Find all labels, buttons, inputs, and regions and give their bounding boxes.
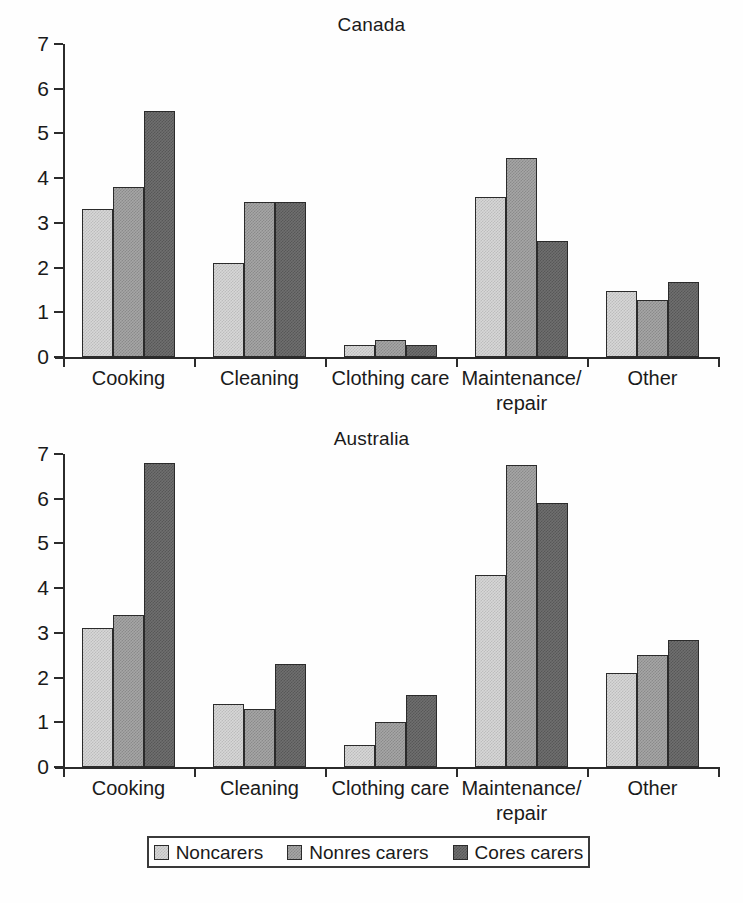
x-tick-label: Other — [587, 366, 718, 391]
bar — [213, 704, 244, 767]
y-axis-tick — [54, 356, 63, 358]
y-axis-tick — [54, 88, 63, 90]
bar — [275, 664, 306, 767]
bar — [406, 695, 437, 767]
bar — [606, 673, 637, 767]
legend-label: Nonres carers — [309, 843, 428, 862]
legend-label: Noncarers — [176, 843, 264, 862]
bar — [244, 709, 275, 767]
x-tick-label: Maintenance/ repair — [456, 366, 587, 416]
bar — [668, 640, 699, 767]
x-tick-label: Cooking — [63, 776, 194, 801]
bar — [668, 282, 699, 357]
x-tick-label: Maintenance/ repair — [456, 776, 587, 826]
chart-title-australia: Australia — [0, 428, 743, 450]
y-axis-tick-label: 6 — [37, 78, 49, 99]
chart-title-canada: Canada — [0, 14, 743, 36]
y-axis-tick-label: 3 — [37, 212, 49, 233]
plot-area-canada: 01234567 — [63, 44, 718, 357]
bar — [637, 655, 668, 767]
y-axis-tick-label: 2 — [37, 257, 49, 278]
figure-page: Canada 01234567 CookingCleaningClothing … — [0, 0, 743, 903]
legend-item: Cores carers — [453, 843, 584, 862]
legend-item: Nonres carers — [287, 843, 428, 862]
bar — [82, 628, 113, 767]
bar — [537, 503, 568, 767]
legend-label: Cores carers — [475, 843, 584, 862]
bar — [475, 575, 506, 767]
bar — [375, 340, 406, 357]
y-axis-tick-label: 0 — [37, 346, 49, 367]
y-axis-tick — [54, 766, 63, 768]
bar — [275, 202, 306, 357]
bar — [213, 263, 244, 357]
x-axis-group-tick — [718, 768, 720, 777]
y-axis-tick — [54, 222, 63, 224]
x-tick-label: Cleaning — [194, 366, 325, 391]
figure-caption — [8, 886, 743, 900]
chart-panel-australia: Australia 01234567 CookingCleaningClothi… — [0, 420, 743, 830]
x-tick-label: Cleaning — [194, 776, 325, 801]
y-axis-tick — [54, 177, 63, 179]
y-axis-tick-label: 1 — [37, 301, 49, 322]
bar — [344, 345, 375, 357]
y-axis-tick — [54, 632, 63, 634]
y-axis-tick — [54, 267, 63, 269]
bar — [344, 745, 375, 767]
bar — [113, 187, 144, 357]
legend-swatch-icon — [453, 845, 468, 860]
x-axis-group-tick — [718, 358, 720, 367]
bar — [506, 465, 537, 767]
plot-area-australia: 01234567 — [63, 454, 718, 767]
y-axis-tick — [54, 542, 63, 544]
chart-legend: NoncarersNonres carersCores carers — [147, 836, 590, 868]
bar — [506, 158, 537, 357]
bar — [375, 722, 406, 767]
bar — [406, 345, 437, 357]
y-axis-tick — [54, 587, 63, 589]
y-axis-tick — [54, 498, 63, 500]
y-axis-tick-label: 4 — [37, 577, 49, 598]
y-axis-tick — [54, 43, 63, 45]
bar — [82, 209, 113, 357]
y-axis-tick-label: 0 — [37, 756, 49, 777]
bar — [606, 291, 637, 357]
y-axis-tick-label: 6 — [37, 488, 49, 509]
y-axis-tick-label: 4 — [37, 167, 49, 188]
bar — [113, 615, 144, 767]
legend-swatch-icon — [287, 845, 302, 860]
bar — [637, 300, 668, 357]
x-tick-labels-australia: CookingCleaningClothing careMaintenance/… — [63, 776, 718, 836]
bar — [244, 202, 275, 357]
bar — [144, 111, 175, 357]
legend-swatch-icon — [154, 845, 169, 860]
y-axis-tick-label: 7 — [37, 33, 49, 54]
x-axis-canada — [55, 357, 720, 359]
y-axis-tick-label: 7 — [37, 443, 49, 464]
x-axis-australia — [55, 767, 720, 769]
bar — [537, 241, 568, 357]
bar — [475, 197, 506, 357]
y-axis-tick-label: 1 — [37, 711, 49, 732]
y-axis-tick-label: 3 — [37, 622, 49, 643]
chart-panel-canada: Canada 01234567 CookingCleaningClothing … — [0, 0, 743, 420]
y-axis-tick-label: 2 — [37, 667, 49, 688]
y-axis-tick — [54, 721, 63, 723]
x-tick-labels-canada: CookingCleaningClothing careMaintenance/… — [63, 366, 718, 426]
y-axis-tick-label: 5 — [37, 123, 49, 144]
x-tick-label: Clothing care — [325, 776, 456, 801]
y-axis-tick — [54, 311, 63, 313]
legend-item: Noncarers — [154, 843, 264, 862]
bar-group-container-australia — [63, 454, 718, 767]
y-axis-tick-label: 5 — [37, 533, 49, 554]
y-axis-tick — [54, 677, 63, 679]
x-tick-label: Clothing care — [325, 366, 456, 391]
x-tick-label: Other — [587, 776, 718, 801]
x-tick-label: Cooking — [63, 366, 194, 391]
y-axis-tick — [54, 453, 63, 455]
bar — [144, 463, 175, 767]
bar-group-container-canada — [63, 44, 718, 357]
y-axis-tick — [54, 132, 63, 134]
